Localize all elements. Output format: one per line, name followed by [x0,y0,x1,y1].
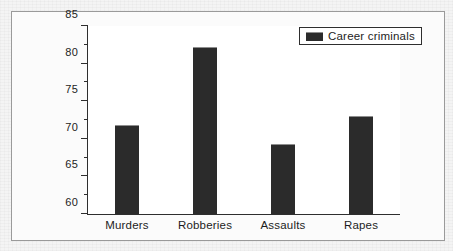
y-axis-label-5: 85 [65,8,78,20]
legend-swatch-career-criminals [306,32,323,41]
x-axis-label-robberies: Robberies [178,219,232,231]
y-axis-label-0: 60 [65,196,78,208]
bar-robberies[interactable] [193,47,217,214]
legend-label-career-criminals: Career criminals [328,30,415,42]
chart-figure-frame: 60 65 70 75 80 85 Murders Robbe [11,11,445,241]
y-axis-label-1: 65 [65,158,78,170]
x-axis-label-assaults: Assaults [260,219,305,231]
y-axis-tick-major [81,100,88,101]
y-axis-tick-minor [84,194,88,195]
y-axis-label-2: 70 [65,121,78,133]
y-axis-tick-major [81,25,88,26]
y-axis-label-4: 80 [65,46,78,58]
bar-murders[interactable] [115,125,139,214]
page-root: 60 65 70 75 80 85 Murders Robbe [0,0,453,251]
y-axis-tick-minor [84,81,88,82]
y-axis-tick-minor [84,119,88,120]
y-axis-tick-major [81,213,88,214]
y-axis-tick-minor [84,44,88,45]
bar-rapes[interactable] [349,116,373,214]
plot-area: 60 65 70 75 80 85 Murders Robbe [87,26,400,215]
y-axis-tick-major [81,175,88,176]
y-axis-tick-minor [84,157,88,158]
y-axis-tick-major [81,63,88,64]
y-axis-tick-major [81,138,88,139]
y-axis-label-3: 75 [65,83,78,95]
x-axis-label-rapes: Rapes [344,219,378,231]
x-axis-label-murders: Murders [105,219,149,231]
chart-legend[interactable]: Career criminals [299,27,422,45]
bar-assaults[interactable] [271,144,295,214]
